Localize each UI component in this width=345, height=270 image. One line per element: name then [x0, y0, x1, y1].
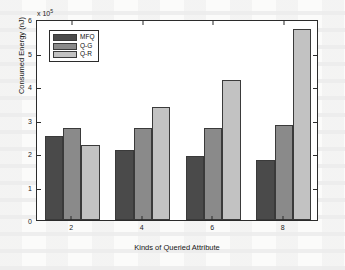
bar-mfq-2: [45, 136, 63, 220]
y-axis-tick-label: 1: [28, 184, 32, 191]
bar-mfq-6: [186, 156, 204, 220]
x-axis-tick-mark: [141, 216, 142, 220]
y-axis-multiplier-text: x 10: [37, 10, 50, 17]
y-axis-tick-mark: [313, 88, 317, 89]
y-axis-tick-label: 2: [28, 151, 32, 158]
bar-q-r-4: [152, 107, 170, 220]
chart-figure: x 105 Consumed Energy (nJ) 0123456 MFQQ-…: [0, 0, 345, 270]
x-axis-tick-mark: [212, 216, 213, 220]
y-axis-tick-mark: [37, 122, 41, 123]
legend-swatch-q-g: [53, 43, 77, 50]
legend-item-q-g: Q-G: [53, 43, 94, 50]
legend-item-mfq: MFQ: [53, 34, 94, 41]
bar-q-g-2: [63, 128, 81, 220]
x-axis-tick-label: 4: [140, 224, 144, 231]
y-axis-tick-mark: [313, 55, 317, 56]
x-axis-tick-mark-top: [72, 21, 73, 25]
bar-mfq-4: [115, 150, 133, 220]
y-axis-tick-mark: [313, 122, 317, 123]
y-axis-tick-label: 6: [28, 17, 32, 24]
x-axis-tick-label: 6: [210, 224, 214, 231]
y-axis-tick-mark: [37, 55, 41, 56]
y-axis-tick-label: 5: [28, 50, 32, 57]
x-axis-tick-mark-top: [142, 21, 143, 25]
x-axis-tick-label: 2: [69, 224, 73, 231]
x-axis-tick-mark-top: [283, 21, 284, 25]
bar-q-g-4: [134, 128, 152, 220]
y-axis-exponent-label: x 105: [37, 8, 53, 17]
x-axis-tick-group: 2468: [36, 221, 318, 235]
y-axis-tick-mark: [313, 189, 317, 190]
legend-label-mfq: MFQ: [80, 34, 94, 41]
x-axis-tick-mark: [282, 216, 283, 220]
bar-q-g-8: [275, 125, 293, 220]
y-axis-tick-group: 0123456: [0, 20, 36, 221]
bar-mfq-8: [256, 160, 274, 220]
y-axis-tick-mark: [37, 155, 41, 156]
y-axis-exponent-value: 5: [50, 8, 53, 14]
y-axis-tick-mark: [313, 155, 317, 156]
legend-item-q-r: Q-R: [53, 51, 94, 58]
plot-area: MFQQ-GQ-R: [36, 20, 318, 221]
x-axis-tick-label: 8: [281, 224, 285, 231]
bar-q-r-2: [81, 145, 99, 220]
chart-legend: MFQQ-GQ-R: [49, 30, 99, 62]
legend-swatch-q-r: [53, 51, 77, 58]
bar-q-r-8: [293, 29, 311, 220]
legend-label-q-r: Q-R: [80, 51, 92, 58]
y-axis-tick-label: 4: [28, 84, 32, 91]
x-axis-title: Kinds of Queried Attribute: [36, 243, 318, 252]
x-axis-tick-mark: [71, 216, 72, 220]
x-axis-tick-mark-top: [213, 21, 214, 25]
legend-label-q-g: Q-G: [80, 43, 92, 50]
bar-q-r-6: [222, 80, 240, 220]
legend-swatch-mfq: [53, 34, 77, 41]
bar-q-g-6: [204, 128, 222, 220]
y-axis-tick-label: 3: [28, 117, 32, 124]
y-axis-tick-mark: [37, 88, 41, 89]
y-axis-tick-label: 0: [28, 218, 32, 225]
y-axis-tick-mark: [37, 189, 41, 190]
